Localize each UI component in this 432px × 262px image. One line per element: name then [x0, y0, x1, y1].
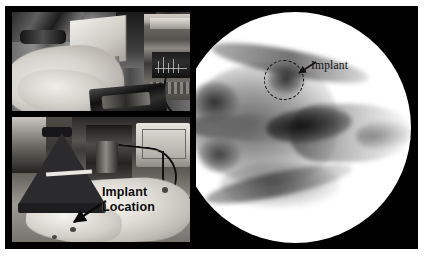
xray-panel: Implant — [196, 12, 418, 243]
lab-setup-photo — [12, 12, 190, 111]
implant-xray-label: Implant — [311, 59, 348, 71]
lab-instrument-top-panel — [150, 18, 190, 29]
antenna-setup-photo: Implant Location — [12, 117, 190, 242]
animal-marker-spot-2 — [52, 235, 57, 239]
implant-location-line2: Location — [102, 200, 155, 215]
xray-mandible-region — [220, 162, 340, 208]
xray-orbit-lower — [198, 138, 240, 172]
figure-root: Implant Location — [0, 0, 432, 262]
animal-marker-spot-3 — [162, 187, 168, 193]
implant-location-line1: Implant — [102, 185, 155, 200]
xray-circular-field: Implant — [196, 12, 411, 243]
lab-background-object — [20, 30, 66, 44]
implant-location-label: Implant Location — [102, 185, 155, 215]
pyramidal-horn-antenna — [18, 133, 106, 205]
